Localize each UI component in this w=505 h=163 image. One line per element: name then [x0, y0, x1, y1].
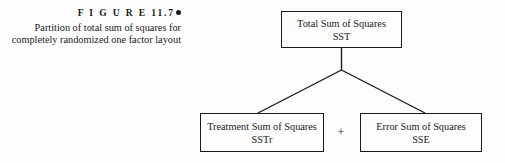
plus-operator-symbol: + — [333, 124, 349, 140]
node-total-title: Total Sum of Squares — [297, 17, 386, 30]
node-treatment-sum-of-squares: Treatment Sum of Squares SSTr — [200, 113, 324, 152]
node-error-abbr: SSE — [412, 133, 430, 146]
figure-number-text: F I G U R E 11.7 — [78, 8, 175, 18]
connector-branch-left — [258, 70, 342, 113]
node-total-sum-of-squares: Total Sum of Squares SST — [281, 11, 402, 48]
node-total-abbr: SST — [333, 30, 351, 43]
connector-branch-right — [342, 70, 426, 113]
node-treatment-abbr: SSTr — [252, 133, 273, 146]
filled-circle-bullet-icon — [176, 10, 181, 15]
figure-caption: F I G U R E 11.7 Partition of total sum … — [0, 7, 181, 47]
figure-number-label: F I G U R E 11.7 — [0, 7, 181, 20]
caption-line-2: completely randomized one factor layout — [0, 34, 181, 47]
node-error-sum-of-squares: Error Sum of Squares SSE — [360, 113, 482, 152]
caption-line-1: Partition of total sum of squares for — [0, 22, 181, 35]
node-error-title: Error Sum of Squares — [376, 120, 466, 133]
figure-diagram: F I G U R E 11.7 Partition of total sum … — [0, 0, 505, 163]
node-treatment-title: Treatment Sum of Squares — [207, 120, 317, 133]
